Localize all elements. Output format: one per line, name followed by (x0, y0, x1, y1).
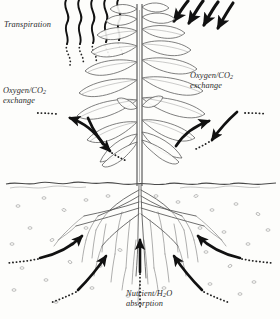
plant-exchange-diagram: Transpiration Oxygen/CO2exchange Oxygen/… (0, 0, 280, 319)
label-oxygen-co2-right-line1: Oxygen/CO (190, 71, 230, 80)
label-oxygen-co2-right: Oxygen/CO2exchange (190, 71, 233, 91)
label-transpiration: Transpiration (4, 20, 51, 30)
label-nutrient-line2: absorption (126, 299, 163, 308)
diagram-illustration (0, 0, 280, 319)
label-oxygen-co2-right-line2: exchange (190, 81, 222, 90)
label-oxygen-co2-left-line2: exchange (3, 96, 35, 105)
label-nutrient-line1-b: O (166, 289, 172, 298)
label-oxygen-co2-left-line1: Oxygen/CO (3, 86, 43, 95)
label-oxygen-co2-left-subscript: 2 (43, 89, 46, 95)
label-nutrient-absorption: Nutrient/H2Oabsorption (126, 289, 172, 309)
label-oxygen-co2-left: Oxygen/CO2exchange (3, 86, 46, 106)
label-nutrient-line1-a: Nutrient/H (126, 289, 163, 298)
label-oxygen-co2-right-subscript: 2 (230, 74, 233, 80)
